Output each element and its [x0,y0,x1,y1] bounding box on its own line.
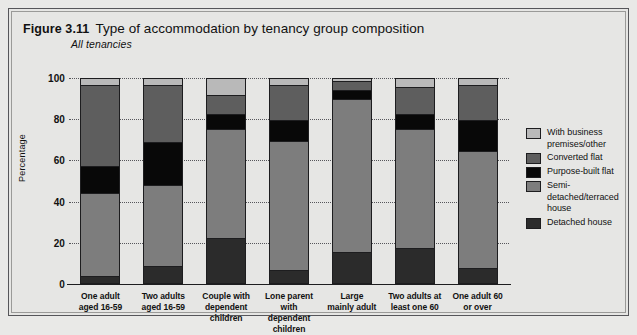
plot-canvas [69,78,509,284]
bar-segment [270,142,308,271]
bar-segment [459,79,497,86]
bar-segment [207,96,245,115]
x-axis-line [67,284,511,285]
x-label-6: Two adults atleast one 60 [383,291,446,325]
stacked-bar[interactable] [395,78,435,284]
bar-segment [459,86,497,121]
bar-slot [69,78,132,284]
legend-swatch-icon [526,167,541,178]
legend-label: Detached house [547,217,612,229]
x-label-3: Couple withdependent children [195,291,258,325]
bar-segment [144,143,182,186]
bar-segment [333,82,371,91]
x-label-5: Largemainly adult [320,291,383,325]
stacked-bar[interactable] [206,78,246,284]
bar-segment [396,115,434,130]
bar-segment [207,79,245,96]
bar-slot [258,78,321,284]
bar-slot [132,78,195,284]
bar-segment [144,186,182,267]
legend-swatch-icon [526,153,541,164]
bar-slot [446,78,509,284]
figure-panel: Figure 3.11Type of accommodation by tena… [8,8,629,316]
y-tick-100: 100 [48,73,65,84]
bar-segment [270,121,308,142]
bar-segment [207,115,245,130]
legend: With business premises/otherConverted fl… [526,127,628,231]
y-tick-40: 40 [54,196,65,207]
bar-segment [396,79,434,88]
bar-group [69,78,509,284]
bar-slot [383,78,446,284]
legend-item-5[interactable]: Detached house [526,217,628,229]
bar-segment [459,152,497,269]
bar-segment [333,91,371,100]
figure-header: Figure 3.11Type of accommodation by tena… [23,19,618,50]
y-axis-label: Percentage [17,113,27,203]
y-tick-0: 0 [59,279,65,290]
stacked-bar[interactable] [269,78,309,284]
stacked-bar[interactable] [458,78,498,284]
bar-segment [459,269,497,283]
x-label-4: Lone parent withdependent children [258,291,321,325]
legend-swatch-icon [526,128,541,139]
bar-segment [270,86,308,121]
bar-segment [396,88,434,115]
bar-segment [144,267,182,283]
bar-segment [144,86,182,143]
y-tick-20: 20 [54,237,65,248]
bar-segment [333,100,371,253]
bar-segment [81,79,119,86]
bar-segment [270,79,308,86]
figure-title: Type of accommodation by tenancy group c… [95,21,424,36]
legend-item-3[interactable]: Purpose-built flat [526,166,628,178]
legend-swatch-icon [526,181,541,192]
x-label-1: One adultaged 16-59 [69,291,132,325]
legend-label: Converted flat [547,152,602,164]
x-label-2: Two adultsaged 16-59 [132,291,195,325]
legend-item-2[interactable]: Converted flat [526,152,628,164]
bar-segment [396,130,434,249]
bar-segment [459,121,497,152]
bar-segment [270,271,308,283]
figure-subtitle: All tenancies [71,38,618,50]
y-tick-80: 80 [54,114,65,125]
bar-segment [207,130,245,239]
y-axis-ticks: 100806040200 [27,75,65,291]
bar-segment [81,86,119,167]
legend-item-1[interactable]: With business premises/other [526,127,628,150]
legend-item-4[interactable]: Semi-detached/terraced house [526,180,628,215]
stacked-bar[interactable] [80,78,120,284]
bar-slot [320,78,383,284]
x-axis-labels: One adultaged 16-59Two adultsaged 16-59C… [69,291,509,325]
bar-segment [333,253,371,283]
bar-segment [144,79,182,86]
legend-label: Purpose-built flat [547,166,614,178]
y-tick-60: 60 [54,155,65,166]
bar-segment [396,249,434,283]
stacked-bar[interactable] [143,78,183,284]
legend-label: With business premises/other [547,127,628,150]
figure-number: Figure 3.11 [23,22,89,36]
bar-segment [207,239,245,283]
bar-segment [81,167,119,194]
bar-segment [81,194,119,277]
bar-segment [81,277,119,283]
stacked-bar[interactable] [332,78,372,284]
x-label-7: One adult 60or over [446,291,509,325]
bar-slot [195,78,258,284]
legend-swatch-icon [526,218,541,229]
legend-label: Semi-detached/terraced house [547,180,628,215]
